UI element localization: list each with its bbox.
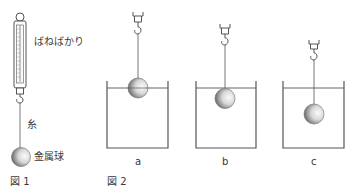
beaker-a xyxy=(107,78,168,148)
beaker-c-apparatus xyxy=(309,40,319,104)
label-spring-scale: ばねばかり xyxy=(34,37,84,47)
figure2-caption: 図 2 xyxy=(107,177,127,187)
diagram-canvas xyxy=(0,0,353,192)
beaker-a-label: a xyxy=(135,157,141,167)
beaker-c-label: c xyxy=(311,157,317,167)
metal-ball-fig1 xyxy=(12,148,31,167)
metal-ball-c xyxy=(304,104,324,124)
beaker-c xyxy=(283,81,344,148)
figure1-caption: 図 1 xyxy=(10,177,30,187)
label-thread: 糸 xyxy=(27,120,37,130)
beaker-b-apparatus xyxy=(220,24,230,88)
spring-scale xyxy=(14,13,26,103)
beaker-b xyxy=(196,81,256,148)
beaker-b-label: b xyxy=(222,157,228,167)
label-metal-ball: 金属球 xyxy=(34,152,64,162)
beaker-a-apparatus xyxy=(133,12,143,79)
metal-ball-b xyxy=(215,89,235,109)
